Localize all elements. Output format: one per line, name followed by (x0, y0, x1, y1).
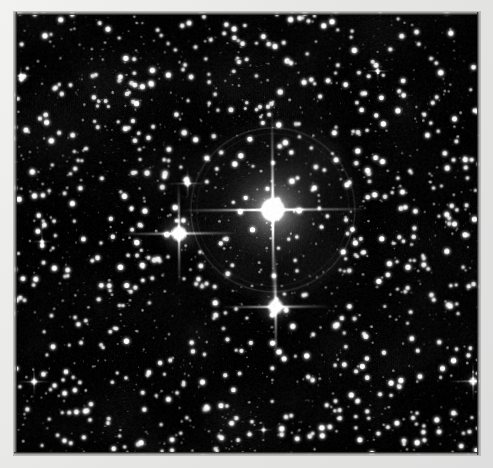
photo-frame (0, 0, 493, 468)
star-field-plate (14, 12, 480, 455)
night-sky (14, 12, 480, 455)
starfield-canvas (14, 12, 480, 455)
caption-strip (0, 456, 493, 468)
